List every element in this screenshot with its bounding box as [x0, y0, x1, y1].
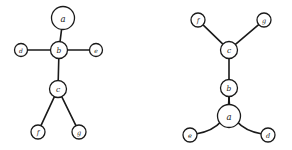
graph-node-right-graph-f[interactable]: f: [191, 13, 205, 27]
graph-node-left-graph-b[interactable]: b: [51, 42, 68, 59]
node-label-g: g: [262, 17, 266, 25]
diagram-figure: abdecfgfgcbaed: [0, 0, 292, 150]
node-label-b: b: [227, 84, 232, 93]
node-label-b: b: [57, 46, 62, 55]
graph-node-right-graph-a[interactable]: a: [218, 105, 241, 128]
graph-edge-f-c: [203, 25, 223, 44]
graph-node-left-graph-d[interactable]: d: [15, 44, 28, 57]
graph-node-left-graph-g[interactable]: g: [72, 125, 86, 139]
graph-edge-c-f: [41, 97, 54, 126]
graph-node-right-graph-c[interactable]: c: [221, 42, 238, 59]
graph-node-right-graph-d[interactable]: d: [261, 128, 275, 142]
node-label-d: d: [19, 47, 23, 54]
node-label-d: d: [266, 132, 270, 140]
node-label-e: e: [188, 132, 192, 140]
node-label-a: a: [226, 112, 231, 122]
graph-edge-a-b: [60, 29, 62, 41]
graph-node-left-graph-f[interactable]: f: [31, 125, 45, 139]
graph-node-right-graph-b[interactable]: b: [221, 80, 238, 97]
graph-node-left-graph-a[interactable]: a: [52, 7, 75, 30]
graph-node-right-graph-g[interactable]: g: [257, 13, 271, 27]
nodes-layer: abdecfgfgcbaed: [15, 7, 276, 143]
graph-node-left-graph-e[interactable]: e: [90, 44, 103, 57]
node-label-e: e: [94, 47, 98, 54]
graph-node-right-graph-e[interactable]: e: [183, 128, 197, 142]
graph-edge-g-c: [235, 25, 258, 45]
graph-node-left-graph-c[interactable]: c: [50, 81, 67, 98]
node-label-g: g: [77, 129, 81, 137]
graph-edge-b-c: [58, 58, 59, 80]
node-label-a: a: [60, 14, 65, 24]
graph-edge-c-g: [62, 97, 76, 126]
graph-canvas: abdecfgfgcbaed: [0, 0, 292, 150]
